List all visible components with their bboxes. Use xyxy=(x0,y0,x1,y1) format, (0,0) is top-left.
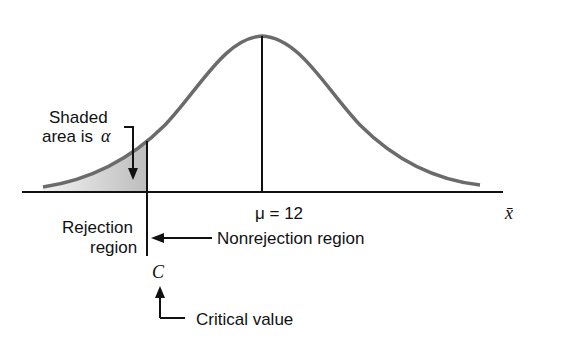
mean-label: μ = 12 xyxy=(255,204,303,223)
critical-value-arrow xyxy=(160,295,185,318)
alpha-symbol: α xyxy=(101,126,111,146)
x-axis-label: x̄ xyxy=(504,203,513,223)
shaded-area-label-2: area is xyxy=(42,127,93,146)
arrow-up-icon xyxy=(155,286,165,298)
critical-value-label: Critical value xyxy=(196,310,293,329)
rejection-region-label-2: region xyxy=(90,238,137,257)
arrow-left-icon xyxy=(151,233,164,243)
critical-value-symbol: C xyxy=(152,262,165,282)
shaded-area-label: Shaded xyxy=(49,108,108,127)
hypothesis-test-diagram: Shaded area is α μ = 12 x̄ Rejection reg… xyxy=(0,0,563,349)
rejection-region-label: Rejection xyxy=(62,218,133,237)
nonrejection-region-label: Nonrejection region xyxy=(217,229,364,248)
